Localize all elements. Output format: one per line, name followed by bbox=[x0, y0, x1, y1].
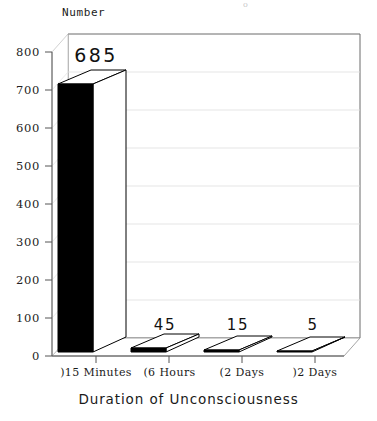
y-tick-label-300: 300 bbox=[0, 235, 40, 249]
y-tick-label-600: 600 bbox=[0, 121, 40, 135]
x-tick-label-4: )2 Days bbox=[269, 366, 361, 379]
bar-value-3: 15 bbox=[203, 316, 273, 334]
y-tick-label-200: 200 bbox=[0, 273, 40, 287]
y-tick-label-0: 0 bbox=[0, 349, 40, 363]
y-tick-label-800: 800 bbox=[0, 45, 40, 59]
bar-value-1: 685 bbox=[46, 44, 146, 66]
bar-value-2: 45 bbox=[130, 316, 200, 334]
bar-chart: o Number bbox=[0, 0, 377, 421]
y-tick-label-500: 500 bbox=[0, 159, 40, 173]
y-tick-label-400: 400 bbox=[0, 197, 40, 211]
bar-column-1 bbox=[58, 70, 126, 352]
bar-value-4: 5 bbox=[278, 316, 348, 334]
y-axis bbox=[45, 52, 52, 356]
x-axis bbox=[52, 356, 344, 363]
y-tick-label-100: 100 bbox=[0, 311, 40, 325]
x-axis-title: Duration of Unconsciousness bbox=[0, 391, 377, 407]
y-tick-label-700: 700 bbox=[0, 83, 40, 97]
